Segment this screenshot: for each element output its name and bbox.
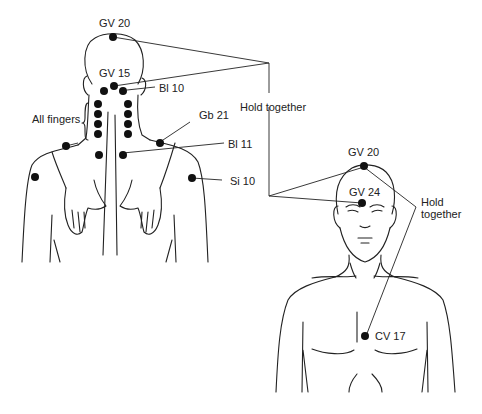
label-gv20-front: GV 20 [348,146,379,158]
label-hold-together-2b: together [421,208,461,220]
label-gv20-back: GV 20 [99,17,130,29]
acupressure-diagram [0,0,482,414]
point-bl11-right [119,151,127,159]
label-gv24: GV 24 [349,186,380,198]
label-cv17: CV 17 [375,330,406,342]
point-bl10-left [100,87,108,95]
label-hold-together-1: Hold together [240,101,306,113]
point-si10-right [188,174,196,182]
label-gb21: Gb 21 [199,109,229,121]
label-gv15: GV 15 [99,67,130,79]
label-si10: Si 10 [230,175,255,187]
label-all-fingers: All fingers [32,113,80,125]
point-gv20-back [109,33,117,41]
label-hold-together-2a: Hold [421,196,444,208]
acupoints [31,33,369,340]
point-gb21-right [156,139,164,147]
point-gv15 [110,82,118,90]
point-gv24 [358,199,366,207]
point-si10-left [31,173,39,181]
label-bl11: Bl 11 [228,138,252,150]
point-bl10-right [119,87,127,95]
point-bl11-left [95,151,103,159]
point-gv20-front [360,162,368,170]
point-gb21-left [62,142,70,150]
label-bl10: Bl 10 [159,82,184,94]
point-cv17 [361,332,369,340]
